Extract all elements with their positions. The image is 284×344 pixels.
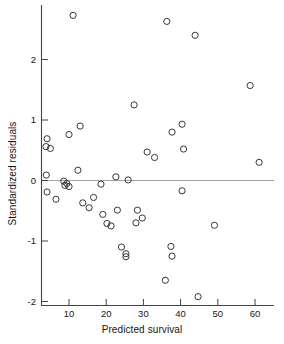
x-axis-label: Predicted survival: [0, 324, 284, 335]
y-tick-label: 1: [31, 114, 36, 125]
plot-background: [0, 0, 284, 344]
x-tick-label: 40: [175, 308, 186, 319]
y-tick-label: 2: [31, 54, 36, 65]
y-tick-label: -2: [28, 296, 36, 307]
y-tick-label: -1: [28, 235, 36, 246]
y-tick-label: 0: [31, 175, 36, 186]
y-axis-label: Standardized residuals: [7, 114, 18, 234]
x-tick-label: 20: [101, 308, 112, 319]
x-tick-label: 50: [213, 308, 224, 319]
x-tick-label: 30: [138, 308, 149, 319]
x-tick-label: 60: [250, 308, 261, 319]
plot-canvas: -2-1012 102030405060: [0, 0, 284, 344]
x-tick-label: 10: [64, 308, 75, 319]
scatter-plot-figure: -2-1012 102030405060 Standardized residu…: [0, 0, 284, 344]
